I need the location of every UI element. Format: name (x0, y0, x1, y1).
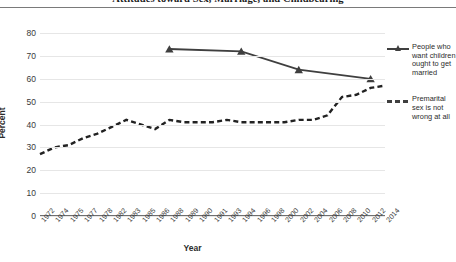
y-tick-label: 40 (27, 120, 36, 130)
title-divider (0, 7, 456, 8)
series-line (40, 86, 385, 155)
y-tick-label: 80 (27, 28, 36, 38)
legend-triangle-icon (395, 45, 401, 51)
gridline (40, 125, 385, 126)
y-tick-label: 10 (27, 188, 36, 198)
chart-legend: People who want children ought to get ma… (387, 43, 456, 139)
gridline (40, 33, 385, 34)
chart-container: Attitudes toward Sex, Marriage, and Chil… (0, 0, 456, 262)
legend-label: People who want children ought to get ma… (412, 43, 456, 77)
y-axis-title: Percent (0, 107, 7, 138)
x-tick-label: 2014 (384, 206, 401, 224)
series-line (169, 49, 370, 79)
gridline (40, 56, 385, 57)
plot-area (40, 33, 385, 216)
y-tick-label: 50 (27, 97, 36, 107)
legend-label: Premarital sex is not wrong at all (412, 95, 456, 121)
y-tick-label: 20 (27, 165, 36, 175)
legend-item[interactable]: Premarital sex is not wrong at all (387, 95, 456, 121)
y-tick-label: 70 (27, 51, 36, 61)
gridline (40, 79, 385, 80)
y-tick-label: 60 (27, 74, 36, 84)
gridline (40, 102, 385, 103)
legend-swatch-icon (387, 44, 409, 54)
gridline (40, 170, 385, 171)
legend-item[interactable]: People who want children ought to get ma… (387, 43, 456, 77)
gridline (40, 147, 385, 148)
x-axis-tick-labels: 1972197419751977197819821983198519861988… (40, 218, 385, 244)
gridline (40, 193, 385, 194)
legend-line (387, 100, 409, 103)
y-tick-label: 30 (27, 142, 36, 152)
x-axis-title: Year (0, 243, 385, 253)
chart-title: Attitudes toward Sex, Marriage, and Chil… (0, 0, 456, 4)
legend-swatch-icon (387, 96, 409, 106)
y-tick-label: 0 (31, 211, 36, 221)
